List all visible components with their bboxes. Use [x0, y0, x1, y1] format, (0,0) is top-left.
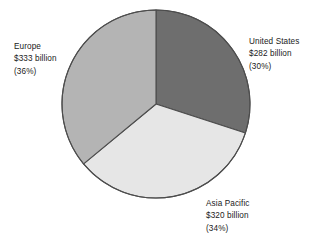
pie-label-united-states-name: United States — [249, 36, 299, 48]
pie-chart: United States $282 billion (30%) Europe … — [0, 0, 323, 249]
pie-label-asia-pacific-name: Asia Pacific — [206, 198, 250, 210]
pie-label-united-states: United States $282 billion (30%) — [249, 36, 299, 73]
pie-label-asia-pacific-value: $320 billion — [206, 210, 250, 222]
pie-label-europe: Europe $333 billion (36%) — [14, 41, 57, 78]
pie-label-asia-pacific-percent: (34%) — [206, 223, 250, 235]
pie-label-europe-name: Europe — [14, 41, 57, 53]
pie-label-united-states-value: $282 billion — [249, 48, 299, 60]
pie-label-asia-pacific: Asia Pacific $320 billion (34%) — [206, 198, 250, 235]
pie-label-united-states-percent: (30%) — [249, 61, 299, 73]
pie-label-europe-percent: (36%) — [14, 66, 57, 78]
pie-label-europe-value: $333 billion — [14, 53, 57, 65]
